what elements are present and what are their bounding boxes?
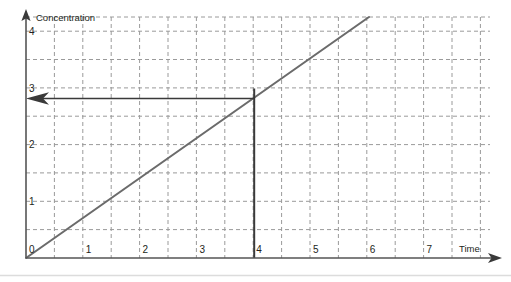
y-tick-label-4: 4 — [29, 26, 35, 37]
x-tick-label-0: 0 — [29, 244, 35, 255]
y-axis-title: Concentration — [36, 12, 95, 23]
y-tick-label-1: 1 — [29, 196, 35, 207]
x-tick-label-7: 7 — [427, 244, 433, 255]
chart-svg: 0 1 2 3 4 5 6 7 1 2 3 4 Concentration Ti… — [0, 0, 511, 282]
x-tick-label-6: 6 — [370, 244, 376, 255]
x-axis-title: Time — [459, 243, 480, 254]
screenshot-root: 0 1 2 3 4 5 6 7 1 2 3 4 Concentration Ti… — [0, 0, 511, 282]
y-tick-label-3: 3 — [29, 83, 35, 94]
x-tick-label-2: 2 — [143, 244, 149, 255]
y-tick-label-2: 2 — [29, 139, 35, 150]
x-tick-label-1: 1 — [86, 244, 92, 255]
x-tick-label-5: 5 — [313, 244, 319, 255]
x-tick-label-3: 3 — [199, 244, 205, 255]
concentration-vs-time-chart: 0 1 2 3 4 5 6 7 1 2 3 4 Concentration Ti… — [0, 0, 511, 282]
chart-background — [0, 0, 511, 282]
x-tick-label-4: 4 — [256, 244, 262, 255]
